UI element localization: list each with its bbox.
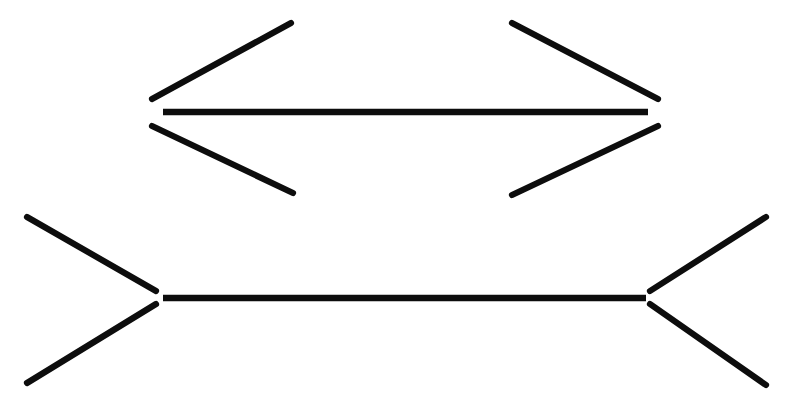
muller-lyer-figure: Two horizontal line segments of similar … (0, 0, 787, 403)
figure-drawing-surface (0, 0, 787, 403)
figure-background (0, 0, 787, 403)
